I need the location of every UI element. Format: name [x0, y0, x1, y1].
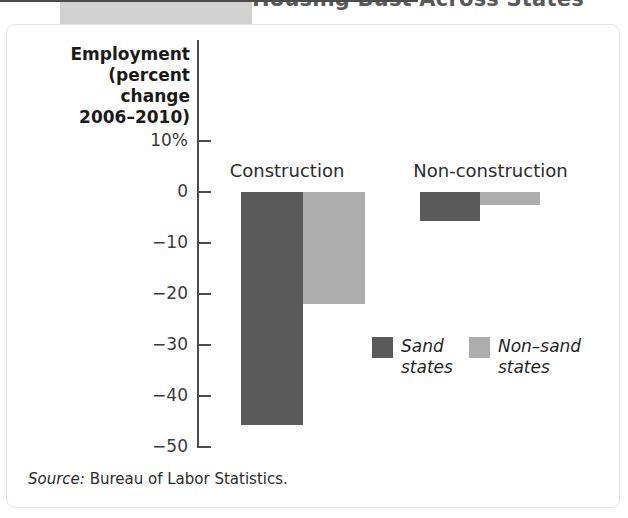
- bar-non-construction-sand-states: [420, 192, 480, 221]
- y-tick-label--10: −10: [114, 234, 188, 251]
- y-tick-label-10: 10%: [114, 132, 188, 149]
- y-tick-label--50: −50: [114, 438, 188, 455]
- y-axis-title-line-2: 2006–2010): [38, 107, 190, 128]
- y-tick-label-text: −40: [118, 387, 188, 404]
- y-tick-10: [199, 140, 211, 142]
- y-tick-label-text: −50: [118, 438, 188, 455]
- figure-container: Housing Bust Across States Employment(pe…: [0, 0, 628, 518]
- y-tick-label-text: 0: [118, 183, 188, 200]
- y-tick--10: [199, 242, 211, 244]
- y-tick-label-text: 10%: [118, 132, 188, 149]
- category-label-non-construction: Non-construction: [398, 161, 583, 181]
- y-tick--50: [199, 446, 211, 448]
- category-label-construction: Construction: [212, 161, 362, 181]
- y-tick-label-text: −30: [118, 336, 188, 353]
- y-tick-label-0: 0: [114, 183, 188, 200]
- bar-non-construction-non-sand-states: [480, 192, 540, 205]
- legend-label-sand-states: Sand states: [401, 336, 453, 378]
- source-note: Source: Bureau of Labor Statistics.: [28, 470, 288, 488]
- bar-construction-sand-states: [241, 192, 303, 425]
- y-tick-label--40: −40: [114, 387, 188, 404]
- y-tick-0: [199, 191, 211, 193]
- source-label: Source:: [28, 470, 85, 488]
- y-axis-title-line-1: (percent change: [38, 65, 190, 107]
- legend-swatch-non-sand-states: [469, 337, 490, 358]
- legend-swatch-sand-states: [372, 337, 393, 358]
- bar-construction-non-sand-states: [303, 192, 365, 304]
- legend-item-non-sand-states: Non–sand states: [469, 336, 581, 378]
- y-tick-label--20: −20: [114, 285, 188, 302]
- y-axis-title: Employment(percent change2006–2010): [38, 44, 190, 128]
- legend-item-sand-states: Sand states: [372, 336, 453, 378]
- bar-chart-plot: Employment(percent change2006–2010) 10%0…: [0, 0, 628, 518]
- y-tick-label-text: −10: [118, 234, 188, 251]
- y-tick-label-text: −20: [118, 285, 188, 302]
- y-axis-title-line-0: Employment: [38, 44, 190, 65]
- chart-legend: Sand states Non–sand states: [372, 336, 581, 378]
- legend-label-non-sand-states: Non–sand states: [498, 336, 581, 378]
- y-tick-label--30: −30: [114, 336, 188, 353]
- y-axis-line: [197, 40, 199, 448]
- y-tick--30: [199, 344, 211, 346]
- y-tick--20: [199, 293, 211, 295]
- zero-baseline: [0, 0, 418, 2]
- source-text: Bureau of Labor Statistics.: [90, 470, 288, 488]
- y-tick--40: [199, 395, 211, 397]
